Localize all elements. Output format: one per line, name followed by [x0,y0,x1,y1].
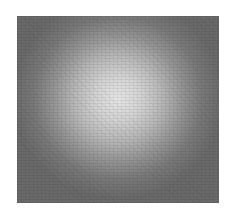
speckle-image [17,16,219,203]
noise-texture [17,16,219,203]
